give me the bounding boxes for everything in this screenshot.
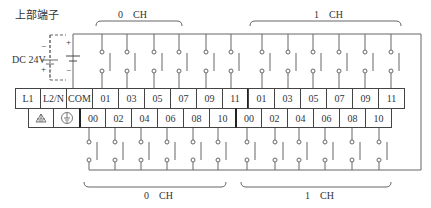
brace-top-1ch: [250, 21, 401, 26]
terminal-0ch-02: 02: [105, 108, 132, 128]
power-plus: +: [41, 65, 46, 74]
terminal-0ch-06: 06: [157, 108, 184, 128]
terminal-0ch-04: 04: [131, 108, 158, 128]
switch-top: [177, 34, 187, 88]
terminal-title: 上部端子: [15, 10, 59, 21]
channel-label-bottom-0: 0 CH: [144, 191, 173, 201]
terminal-com: COM: [66, 88, 93, 109]
switch-bottom: [350, 128, 360, 170]
terminal-0ch-03: 03: [118, 88, 145, 109]
terminal-l2n: L2/N: [40, 88, 67, 109]
terminal-1ch-09: 09: [352, 88, 379, 109]
terminal-1ch-07: 07: [326, 88, 353, 109]
terminal-0ch-00: 00: [79, 108, 106, 128]
switch-top: [100, 34, 110, 88]
switch-bottom: [191, 128, 201, 170]
switch-top: [152, 34, 162, 88]
terminal-0ch-08: 08: [183, 108, 210, 128]
terminal-l1: L1: [15, 88, 41, 109]
terminal-ground: [28, 108, 54, 128]
switch-bottom: [245, 128, 255, 170]
ground-icon: [34, 112, 48, 124]
terminal-1ch-02: 02: [261, 108, 288, 128]
channel-label-top-0: 0 CH: [118, 10, 147, 20]
switch-top: [337, 34, 347, 88]
terminal-1ch-05: 05: [300, 88, 327, 109]
switch-top: [229, 34, 239, 88]
brace-bottom-1ch: [241, 182, 391, 187]
brace-bottom-0ch: [84, 182, 226, 187]
switch-bottom: [377, 128, 387, 170]
channel-label-bottom-1: 1 CH: [305, 191, 334, 201]
switch-top: [363, 34, 373, 88]
switch-bottom: [113, 128, 123, 170]
terminal-0ch-09: 09: [196, 88, 223, 109]
switch-bottom: [297, 128, 307, 170]
switch-top: [260, 34, 270, 88]
battery-plus: +: [66, 38, 71, 47]
terminal-0ch-01: 01: [92, 88, 119, 109]
terminal-0ch-10: 10: [209, 108, 236, 128]
switch-bottom: [323, 128, 333, 170]
frame-ground-icon: [60, 111, 74, 125]
switch-bottom: [139, 128, 149, 170]
terminal-0ch-05: 05: [144, 88, 171, 109]
terminal-1ch-10: 10: [365, 108, 392, 128]
battery-minus: −: [66, 66, 71, 75]
terminal-1ch-08: 08: [339, 108, 366, 128]
channel-label-top-1: 1 CH: [314, 10, 343, 20]
terminal-frame-ground: [53, 108, 80, 128]
switch-bottom: [216, 128, 226, 170]
switch-top: [286, 34, 296, 88]
switch-top: [311, 34, 321, 88]
terminal-0ch-07: 07: [170, 88, 197, 109]
terminal-0ch-11: 11: [222, 88, 249, 109]
switch-top: [389, 34, 399, 88]
terminal-1ch-00: 00: [235, 108, 262, 128]
terminal-1ch-03: 03: [274, 88, 301, 109]
switch-top: [125, 34, 135, 88]
switch-bottom: [165, 128, 175, 170]
terminal-1ch-06: 06: [313, 108, 340, 128]
power-minus: −: [41, 42, 46, 51]
switch-bottom: [87, 128, 97, 170]
switch-top: [204, 34, 214, 88]
terminal-1ch-04: 04: [287, 108, 314, 128]
switch-bottom: [273, 128, 283, 170]
brace-top-0ch: [96, 21, 182, 26]
terminal-1ch-11: 11: [378, 88, 405, 109]
terminal-1ch-01: 01: [248, 88, 275, 109]
